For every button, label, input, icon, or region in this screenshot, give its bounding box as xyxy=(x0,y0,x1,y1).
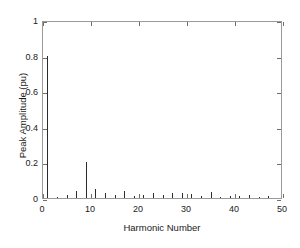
x-axis-tick xyxy=(91,194,92,198)
plot-area xyxy=(42,21,282,199)
x-axis-tick xyxy=(283,194,284,198)
x-axis-tick xyxy=(139,22,140,26)
y-axis-tick-label: 0 xyxy=(33,194,38,204)
x-axis-tick xyxy=(139,194,140,198)
bar xyxy=(143,195,144,198)
y-axis-tick xyxy=(43,200,47,201)
bar-series xyxy=(43,22,281,198)
bar xyxy=(249,195,250,198)
x-axis-tick-label: 10 xyxy=(85,204,95,214)
bar xyxy=(268,196,269,198)
bar xyxy=(172,193,173,198)
bar xyxy=(95,189,96,198)
bar xyxy=(211,192,212,198)
bar xyxy=(105,193,106,198)
x-axis-tick xyxy=(283,22,284,26)
y-axis-tick xyxy=(277,164,281,165)
x-axis-tick-label: 20 xyxy=(133,204,143,214)
y-axis-tick-label: 1 xyxy=(33,16,38,26)
bar xyxy=(182,193,183,198)
x-axis-tick xyxy=(187,194,188,198)
x-axis-tick xyxy=(91,22,92,26)
y-axis-tick xyxy=(43,164,47,165)
x-axis-title: Harmonic Number xyxy=(42,222,282,233)
x-axis-tick xyxy=(187,22,188,26)
bar xyxy=(57,197,58,198)
x-axis-tick-label: 40 xyxy=(229,204,239,214)
y-axis-tick xyxy=(43,22,47,23)
x-axis-tick-label: 50 xyxy=(277,204,287,214)
bar xyxy=(86,162,87,198)
x-axis-tick xyxy=(235,22,236,26)
bar xyxy=(153,193,154,198)
bar xyxy=(134,196,135,198)
y-axis-tick xyxy=(43,129,47,130)
y-axis-tick xyxy=(277,129,281,130)
bar xyxy=(47,56,48,198)
y-axis-tick xyxy=(43,58,47,59)
bar xyxy=(191,194,192,198)
y-axis-tick xyxy=(277,93,281,94)
bar xyxy=(163,195,164,198)
figure-canvas: 00.20.40.60.8101020304050 Harmonic Numbe… xyxy=(0,0,300,248)
x-axis-tick xyxy=(43,194,44,198)
bar xyxy=(239,196,240,198)
y-axis-tick xyxy=(277,58,281,59)
bar xyxy=(76,191,77,198)
bar xyxy=(230,196,231,198)
bar xyxy=(201,196,202,198)
bar xyxy=(124,191,125,198)
x-axis-tick xyxy=(43,22,44,26)
y-axis-tick xyxy=(43,93,47,94)
bar xyxy=(259,197,260,198)
y-axis-tick xyxy=(277,200,281,201)
bar xyxy=(115,195,116,198)
y-axis-tick xyxy=(277,22,281,23)
x-axis-tick xyxy=(235,194,236,198)
x-axis-tick-label: 30 xyxy=(181,204,191,214)
y-axis-title: Peak Amplitude (pu) xyxy=(17,36,28,196)
x-axis-tick-label: 0 xyxy=(39,204,44,214)
bar xyxy=(67,195,68,198)
bar xyxy=(220,197,221,198)
